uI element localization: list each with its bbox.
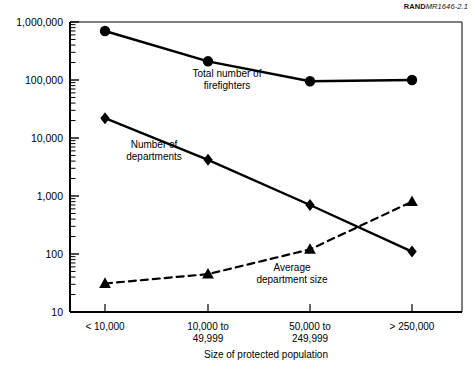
series-label-2: Number of	[131, 139, 178, 150]
chart-svg: 1,000,000100,00010,0001,00010010 < 10,00…	[0, 0, 474, 366]
data-point-marker	[305, 199, 314, 211]
y-axis-tick-label: 100,000	[25, 74, 63, 86]
series-label-1: firefighters	[204, 80, 251, 91]
series-2	[100, 112, 416, 257]
x-axis-title: Size of protected population	[204, 349, 328, 360]
chart-figure: RANDMR1646-2.1 1,000,000100,00010,0001,0…	[0, 0, 474, 366]
data-point-marker	[203, 154, 212, 166]
x-axis-tick-label: < 10,000	[85, 321, 125, 332]
data-point-marker	[407, 246, 416, 258]
data-point-marker	[304, 243, 316, 254]
y-axis-tick-label: 1,000	[37, 190, 63, 202]
x-axis-tick-label: 50,000 to	[289, 321, 331, 332]
plot-frame	[70, 22, 462, 312]
series-label-1: Total number of	[193, 68, 262, 79]
x-axis-tick-label: 10,000 to	[187, 321, 229, 332]
x-axis-tick-label: 49,999	[193, 333, 224, 344]
y-axis-tick-label: 100	[45, 248, 63, 260]
x-axis-tick-label: > 250,000	[390, 321, 435, 332]
data-point-marker	[407, 75, 417, 85]
y-axis-tick-labels: 1,000,000100,00010,0001,00010010	[16, 16, 63, 318]
x-axis-ticks	[105, 304, 412, 312]
y-axis-tick-label: 1,000,000	[16, 16, 63, 28]
data-point-marker	[305, 76, 315, 86]
data-point-marker	[203, 56, 213, 66]
y-axis-tick-label: 10	[51, 306, 63, 318]
data-point-marker	[100, 26, 110, 36]
y-axis-ticks	[70, 22, 79, 312]
data-point-marker	[406, 195, 418, 206]
data-point-marker	[100, 112, 109, 124]
y-axis-tick-label: 10,000	[31, 132, 63, 144]
series-label-2: departments	[126, 151, 182, 162]
series-label-3: Average	[273, 262, 311, 273]
series-line	[105, 202, 412, 284]
x-axis-tick-label: 249,999	[292, 333, 329, 344]
x-axis-tick-labels: < 10,00010,000 to49,99950,000 to249,999>…	[85, 321, 434, 344]
series-label-3: department size	[256, 274, 328, 285]
